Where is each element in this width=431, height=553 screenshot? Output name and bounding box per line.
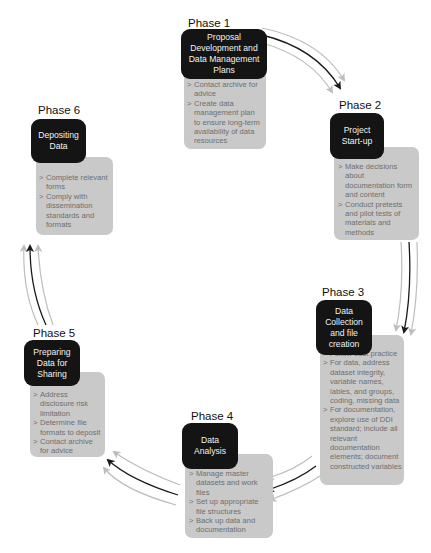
phase-4-item: Manage master datasets and work files: [189, 469, 270, 497]
phase-3-title-box: Data Collection and file creation: [316, 300, 372, 355]
phase-5-label: Phase 5: [33, 327, 75, 339]
phase-4-label: Phase 4: [191, 410, 233, 422]
phase-2-title-box: Project Start-up: [330, 113, 384, 159]
phase-5-item: Determine file formats to deposit: [33, 418, 102, 437]
phase-2-label: Phase 2: [339, 99, 381, 111]
phase-1-label: Phase 1: [188, 17, 230, 29]
phase-5-item: Contact archive for advice: [33, 437, 102, 456]
arrow-phase4-to-phase5: [104, 452, 180, 505]
phase-3-details: Follow best practice For data, address d…: [320, 335, 404, 485]
phase-2-item: Conduct pretests and pilot tests of mate…: [338, 200, 415, 238]
phase-1-item: Create data management plan to ensure lo…: [187, 99, 263, 146]
phase-4-title-box: Data Analysis: [182, 423, 238, 469]
phase-4-item: Set up appropriate file structures: [189, 497, 270, 516]
phase-6-details: Complete relevant forms Comply with diss…: [36, 157, 113, 235]
phase-4-item: Back up data and documentation: [189, 516, 270, 535]
phase-5-title-box: Preparing Data for Sharing: [24, 340, 80, 386]
data-lifecycle-diagram: Phase 1 Proposal Development and Data Ma…: [0, 0, 431, 553]
arrow-phase5-to-phase6: [24, 246, 53, 325]
phase-6-label: Phase 6: [38, 104, 80, 116]
phase-2-item: Make decisions about documentation form …: [338, 162, 415, 200]
phase-5-item: Address disclosure risk limitation: [33, 390, 102, 418]
phase-6-item: Complete relevant forms: [39, 173, 110, 192]
phase-6-title-box: Depositing Data: [31, 119, 86, 163]
arrow-phase1-to-phase2: [262, 28, 344, 92]
phase-3-item: For documentation, explore use of DDI st…: [323, 405, 402, 471]
phase-1-item: Contact archive for advice: [187, 80, 263, 99]
phase-3-item: For data, address dataset integrity, var…: [323, 358, 402, 405]
phase-3-label: Phase 3: [322, 286, 364, 298]
phase-6-item: Comply with dissemination standards and …: [39, 192, 110, 230]
arrow-phase2-to-phase3: [396, 242, 417, 334]
phase-1-title-box: Proposal Development and Data Management…: [181, 29, 267, 79]
arrow-phase3-to-phase4: [268, 456, 320, 500]
phase-2-details: Make decisions about documentation form …: [334, 147, 419, 240]
